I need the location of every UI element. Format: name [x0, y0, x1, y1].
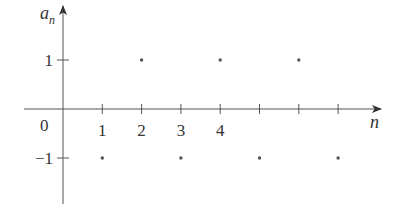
data-point — [336, 156, 339, 159]
y-tick-label: 1 — [45, 51, 54, 70]
sequence-plot: an n 0 12341−1 — [0, 0, 406, 218]
origin-label: 0 — [40, 116, 49, 135]
x-axis-label: n — [370, 112, 379, 132]
x-tick-label: 4 — [216, 121, 225, 140]
x-tick-label: 3 — [177, 121, 186, 140]
y-tick-label: −1 — [35, 149, 53, 168]
data-point — [258, 156, 261, 159]
data-point — [140, 58, 143, 61]
x-tick-label: 2 — [137, 121, 146, 140]
data-point — [101, 156, 104, 159]
data-point — [219, 58, 222, 61]
data-point — [297, 58, 300, 61]
y-axis-label: an — [40, 3, 55, 27]
x-tick-label: 1 — [98, 121, 107, 140]
data-point — [179, 156, 182, 159]
